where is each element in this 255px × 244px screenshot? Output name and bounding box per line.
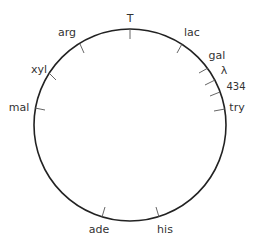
marker-tick: [210, 92, 220, 96]
marker-label: lac: [184, 26, 200, 39]
marker-tick: [177, 44, 182, 53]
marker-tick: [156, 207, 159, 217]
marker-label: ade: [89, 223, 110, 236]
marker-labels: Tlacgalλ434tryhisademalxylarg: [9, 12, 246, 236]
marker-label: his: [157, 223, 173, 236]
marker-label: arg: [58, 26, 76, 39]
marker-label: λ: [221, 64, 228, 77]
marker-tick: [102, 207, 105, 217]
circular-genetic-map: Tlacgalλ434tryhisademalxylarg: [0, 0, 255, 244]
marker-label: T: [126, 12, 134, 25]
marker-tick: [205, 80, 215, 85]
marker-tick: [80, 44, 84, 53]
marker-label: xyl: [31, 63, 47, 76]
marker-label: gal: [209, 49, 226, 62]
marker-tick: [35, 108, 45, 110]
marker-tick: [199, 68, 208, 73]
marker-tick: [49, 73, 56, 80]
marker-label: mal: [9, 101, 30, 114]
marker-label: 434: [226, 81, 245, 92]
chromosome-circle: [34, 29, 226, 221]
marker-ticks: [35, 29, 225, 217]
marker-tick: [214, 109, 225, 111]
marker-label: try: [229, 101, 245, 114]
